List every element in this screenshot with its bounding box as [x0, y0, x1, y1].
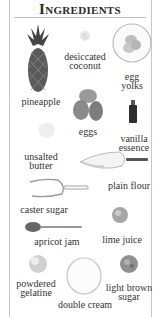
label-lime-juice: lime juice — [98, 235, 146, 244]
desiccated-coconut-image — [78, 28, 92, 44]
label-plain-flour: plain flour — [105, 181, 153, 190]
label-eggs: eggs — [75, 127, 101, 136]
title-divider — [14, 17, 146, 18]
double-cream-image — [65, 256, 103, 296]
egg-yolks-image — [111, 22, 153, 64]
label-desiccated-coconut: desiccated coconut — [60, 52, 110, 70]
lime-juice-image — [110, 205, 130, 225]
pineapple-image — [25, 24, 51, 94]
apricot-jam-image — [24, 220, 86, 234]
caster-sugar-image — [28, 176, 92, 200]
plain-flour-image — [78, 148, 152, 174]
label-caster-sugar: caster sugar — [16, 205, 72, 214]
powdered-gelatine-image — [27, 253, 49, 275]
unsalted-butter-image — [34, 118, 60, 142]
label-powdered-gelatine: powdered gelatine — [15, 279, 57, 297]
label-pineapple: pineapple — [21, 97, 61, 106]
vanilla-essence-image — [127, 100, 139, 125]
label-apricot-jam: apricot jam — [32, 237, 82, 246]
label-light-brown-sugar: light brown sugar — [104, 283, 154, 301]
label-egg-yolks: egg yolks — [116, 72, 148, 90]
label-double-cream: double cream — [58, 300, 108, 309]
label-unsalted-butter: unsalted butter — [21, 152, 61, 170]
light-brown-sugar-image — [118, 253, 140, 275]
eggs-image — [71, 86, 105, 124]
page-title: Ingredients — [0, 1, 160, 18]
